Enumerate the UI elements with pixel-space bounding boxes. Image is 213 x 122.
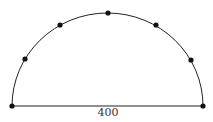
arc-point-4 (153, 22, 158, 27)
arc-point-2 (57, 22, 62, 27)
endpoint-left (9, 103, 14, 108)
diameter-label: 400 (98, 106, 119, 119)
endpoint-right (200, 103, 205, 108)
semicircle-diagram: 400 (0, 0, 213, 122)
diagram-svg (0, 0, 213, 122)
arc-point-5 (188, 57, 193, 62)
semicircle-arc (12, 13, 203, 106)
arc-point-1 (22, 56, 27, 61)
arc-point-3 (105, 10, 110, 15)
